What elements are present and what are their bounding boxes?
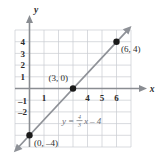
coordinate-graph-figure: x y 4 3 2 1 –1 –2 1 4 5 6 (0, 0, 165, 158)
y-tick-label: –2 (17, 107, 28, 117)
point-marker (26, 132, 32, 138)
equation-lhs: y (61, 116, 66, 126)
equation-constant: – 4 (89, 116, 102, 126)
point-marker (70, 85, 76, 91)
point-label: (3, 0) (49, 73, 69, 83)
equation-annotation: y = 4 3 x – 4 (61, 114, 102, 128)
equation-equals: = (68, 116, 74, 126)
x-tick-label: 5 (100, 93, 105, 103)
x-axis-label: x (149, 84, 155, 94)
equation-variable: x (83, 116, 88, 126)
x-tick-label: 4 (85, 93, 90, 103)
equation-fraction-numerator: 4 (78, 114, 81, 120)
equation-fraction-denominator: 3 (77, 122, 81, 128)
point-marker (113, 39, 119, 45)
y-tick-label: 2 (21, 60, 26, 70)
y-axis-arrowhead-icon (26, 15, 33, 23)
y-axis-label: y (33, 5, 39, 15)
y-tick-label: –1 (17, 96, 28, 106)
point-label: (0, –4) (34, 138, 58, 148)
x-tick-labels: 1 4 5 6 (42, 93, 120, 103)
graph-canvas: x y 4 3 2 1 –1 –2 1 4 5 6 (0, 0, 165, 158)
x-axis-arrowhead-icon (139, 85, 147, 92)
y-tick-label: 4 (21, 37, 26, 47)
point-label: (6, 4) (121, 44, 141, 54)
x-tick-label: 6 (114, 93, 119, 103)
y-tick-label: 3 (21, 49, 26, 59)
x-tick-label: 1 (42, 93, 47, 103)
y-tick-label: 1 (21, 72, 26, 82)
